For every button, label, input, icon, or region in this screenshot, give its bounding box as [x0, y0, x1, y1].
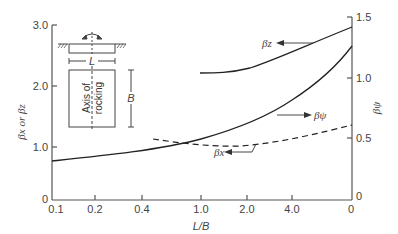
y-right-tick-3: 1.5	[356, 11, 371, 23]
y-left-tick-3: 3.0	[33, 19, 48, 31]
x-tick-0: 0.1	[48, 203, 63, 215]
inset-L-label: L	[89, 55, 95, 67]
y-left-tick-0: 0	[42, 193, 48, 205]
y-left-tick-1: 1.0	[33, 141, 48, 153]
series-beta-z	[200, 27, 352, 73]
y-left-axis-title: βx or βz	[15, 104, 27, 141]
y-right-axis-title: βψ	[370, 102, 382, 115]
y-left-tick-2: 2.0	[33, 80, 48, 92]
chart-figure: 3.0 2.0 1.0 0 1.5 1.0 0.5 0 0.1 0.2 0.4 …	[0, 0, 398, 234]
x-tick-5: 4.0	[284, 203, 299, 215]
svg-text:βz: βz	[261, 37, 272, 49]
chart-svg: 3.0 2.0 1.0 0 1.5 1.0 0.5 0 0.1 0.2 0.4 …	[0, 0, 398, 234]
x-tick-4: 2.0	[239, 203, 254, 215]
inset-axis-label-1: Axis of	[81, 83, 92, 113]
svg-text:βx: βx	[213, 146, 224, 158]
x-tick-1: 0.2	[87, 203, 102, 215]
x-tick-6: 0	[348, 203, 354, 215]
series-beta-x	[153, 125, 352, 146]
y-right-tick-0: 0	[356, 190, 362, 202]
annotation-beta-z: βz	[261, 37, 313, 49]
svg-text:βψ: βψ	[313, 109, 326, 121]
inset-foundation-diagram	[58, 32, 134, 131]
x-tick-2: 0.4	[134, 203, 149, 215]
annotation-beta-psi: βψ	[277, 109, 326, 121]
x-axis-title: L/B	[193, 220, 210, 232]
y-right-tick-1: 0.5	[356, 132, 371, 144]
inset-axis-label-2: rocking	[93, 82, 104, 114]
inset-B-label: B	[127, 92, 134, 104]
x-tick-3: 1.0	[193, 203, 208, 215]
y-right-tick-2: 1.0	[356, 72, 371, 84]
